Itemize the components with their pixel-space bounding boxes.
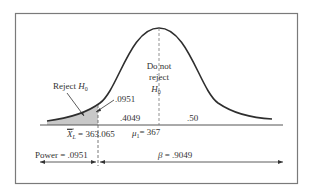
right-half-area-label: .50: [187, 113, 199, 123]
do-not-reject-line2: reject: [149, 72, 169, 82]
do-not-reject-line1: Do not: [147, 61, 172, 71]
power-label: Power = .0951: [35, 150, 88, 160]
critical-value-label: XL = 363.065: [66, 129, 115, 140]
hypothesis-test-diagram: Reject H0 .0951 Do not reject H0 .4049 .…: [0, 0, 312, 195]
beta-left-arrowhead-icon: [100, 160, 105, 164]
power-left-arrowhead-icon: [40, 160, 45, 164]
tail-area-label: .0951: [115, 94, 135, 104]
reject-region-label: Reject H0: [53, 81, 88, 92]
beta-label: β = .9049: [157, 150, 193, 160]
mean-label: μ1= 367: [131, 127, 161, 139]
middle-left-area-label: .4049: [120, 113, 141, 123]
power-right-arrowhead-icon: [91, 160, 96, 164]
beta-right-arrowhead-icon: [278, 160, 283, 164]
